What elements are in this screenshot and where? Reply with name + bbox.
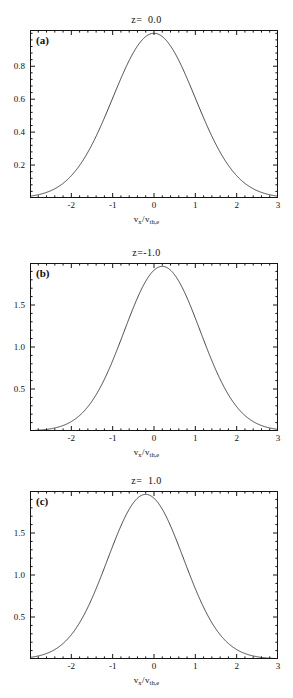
- y-tick-label: 1.5: [14, 300, 25, 310]
- panel-a-frame: [30, 30, 278, 198]
- x-tick-label: 1: [193, 433, 198, 443]
- x-tick-label: -2: [68, 200, 76, 210]
- y-tick-label: 0.5: [14, 612, 25, 622]
- x-tick-label: -1: [109, 200, 117, 210]
- panel-c-letter: (c): [36, 495, 48, 507]
- panel-b-x-tick-labels: -2-10123: [30, 433, 278, 445]
- panel-a-y-tick-labels: 0.20.40.60.8: [0, 30, 28, 198]
- panel-b-title: z=-1.0: [0, 247, 293, 258]
- panel-c-frame: [30, 491, 278, 659]
- x-tick-label: 2: [234, 433, 239, 443]
- panel-a-title: z= 0.0: [0, 14, 293, 25]
- figure-three-panel-velocity-distributions: z= 0.0 0.20.40.60.8 (a) -2-10123 vx/vth,…: [0, 0, 293, 698]
- y-tick-label: 0.2: [14, 160, 25, 170]
- x-tick-label: 3: [276, 200, 281, 210]
- x-subscript: x: [138, 451, 141, 458]
- y-tick-label: 1.5: [14, 528, 25, 538]
- x-tick-label: -1: [109, 433, 117, 443]
- x-subscript: x: [138, 218, 141, 225]
- panel-a-letter: (a): [36, 34, 49, 46]
- panel-b-frame: [30, 263, 278, 431]
- x-tick-label: 0: [152, 661, 157, 671]
- panel-c-x-tick-labels: -2-10123: [30, 661, 278, 673]
- panel-c-plot-area: (c): [30, 491, 278, 659]
- panel-c-title: z= 1.0: [0, 475, 293, 486]
- th-e-subscript: th,e: [150, 451, 160, 458]
- y-tick-label: 0.5: [14, 384, 25, 394]
- x-tick-label: -2: [68, 661, 76, 671]
- x-tick-label: 2: [234, 200, 239, 210]
- x-tick-label: -2: [68, 433, 76, 443]
- panel-b-plot-area: (b): [30, 263, 278, 431]
- x-tick-label: -1: [109, 661, 117, 671]
- y-tick-label: 1.0: [14, 342, 25, 352]
- x-tick-label: 3: [276, 433, 281, 443]
- panel-b: z=-1.0 0.51.01.5 (b) -2-10123 vx/vth,e: [0, 245, 293, 477]
- panel-b-y-tick-labels: 0.51.01.5: [0, 263, 28, 431]
- panel-c-y-tick-labels: 0.51.01.5: [0, 491, 28, 659]
- y-tick-label: 0.4: [14, 127, 25, 137]
- y-tick-label: 0.6: [14, 94, 25, 104]
- panel-c-x-axis-label: vx/vth,e: [0, 675, 293, 685]
- panel-c: z= 1.0 0.51.01.5 (c) -2-10123 vx/vth,e: [0, 473, 293, 698]
- panel-b-x-axis-label: vx/vth,e: [0, 447, 293, 457]
- th-e-subscript: th,e: [150, 679, 160, 686]
- panel-a-x-axis-label: vx/vth,e: [0, 214, 293, 224]
- panel-a: z= 0.0 0.20.40.60.8 (a) -2-10123 vx/vth,…: [0, 12, 293, 244]
- y-tick-label: 0.8: [14, 61, 25, 71]
- x-tick-label: 1: [193, 200, 198, 210]
- panel-a-plot-area: (a): [30, 30, 278, 198]
- th-e-subscript: th,e: [150, 218, 160, 225]
- panel-b-letter: (b): [36, 267, 49, 279]
- x-tick-label: 1: [193, 661, 198, 671]
- y-tick-label: 1.0: [14, 570, 25, 580]
- panel-a-x-tick-labels: -2-10123: [30, 200, 278, 212]
- x-subscript: x: [138, 679, 141, 686]
- x-tick-label: 0: [152, 200, 157, 210]
- x-tick-label: 0: [152, 433, 157, 443]
- x-tick-label: 2: [234, 661, 239, 671]
- x-tick-label: 3: [276, 661, 281, 671]
